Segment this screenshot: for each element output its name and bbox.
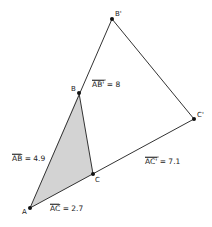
point-label-b-prime: B' (115, 10, 122, 18)
point-b (77, 91, 81, 95)
measurement-ac-prime: AC' = 7.1 (145, 157, 181, 166)
segment-length: = 2.7 (60, 204, 83, 213)
segment-length: = 8 (104, 80, 120, 89)
segment-length: = 4.9 (22, 154, 45, 163)
measurement-ab: AB = 4.9 (12, 154, 45, 163)
segment-bp-cp (112, 19, 194, 119)
point-b-prime (110, 17, 114, 21)
segment-name: AB' (92, 80, 104, 89)
point-label-c: C (95, 176, 100, 184)
point-a (28, 206, 32, 210)
measurement-ac: AC = 2.7 (50, 204, 83, 213)
measurement-ab-prime: AB' = 8 (92, 80, 120, 89)
segment-name: AC (50, 204, 60, 213)
geometry-diagram: ABCB'C' AB' = 8AB = 4.9AC' = 7.1AC = 2.7 (0, 0, 212, 227)
segment-name: AC' (145, 157, 157, 166)
point-label-a: A (22, 208, 27, 216)
point-label-b: B (71, 85, 76, 93)
point-c-prime (192, 117, 196, 121)
segment-name: AB (12, 154, 22, 163)
point-label-c-prime: C' (197, 111, 204, 119)
segment-length: = 7.1 (157, 157, 180, 166)
